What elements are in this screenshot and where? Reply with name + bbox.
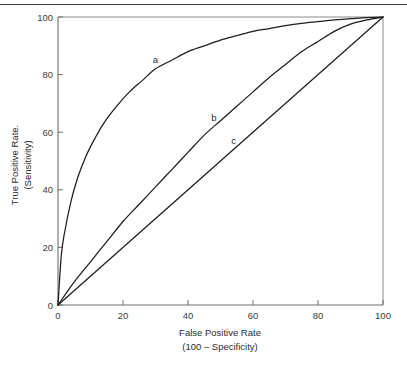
y-tick-label: 20 bbox=[42, 242, 53, 253]
y-tick-label: 60 bbox=[42, 127, 53, 138]
y-tick-label: 80 bbox=[42, 69, 53, 80]
y-axis-title: True Positive Rate. bbox=[9, 125, 20, 205]
x-axis-title: False Positive Rate bbox=[179, 327, 261, 338]
roc-figure: 0 20 40 60 80 100 0 20 40 60 80 100 a b … bbox=[0, 0, 407, 366]
x-axis-title-line2: (100 – Specificity) bbox=[182, 341, 258, 352]
curve-label-b: b bbox=[211, 112, 216, 123]
x-axis-ticks bbox=[58, 300, 383, 305]
y-tick-label: 100 bbox=[37, 12, 53, 23]
x-axis-tick-labels: 0 20 40 60 80 100 bbox=[55, 310, 391, 321]
y-axis-title-line2: (Sensitivity) bbox=[22, 140, 33, 189]
y-axis-tick-labels: 0 20 40 60 80 100 bbox=[37, 12, 53, 311]
y-tick-label: 0 bbox=[48, 300, 53, 311]
x-tick-label: 20 bbox=[118, 310, 129, 321]
roc-chart: 0 20 40 60 80 100 0 20 40 60 80 100 a b … bbox=[0, 0, 407, 366]
curve-label-c: c bbox=[231, 135, 236, 146]
y-tick-label: 40 bbox=[42, 184, 53, 195]
x-tick-label: 40 bbox=[183, 310, 194, 321]
x-tick-label: 80 bbox=[313, 310, 324, 321]
x-tick-label: 100 bbox=[375, 310, 391, 321]
roc-curve-c bbox=[58, 17, 383, 305]
curve-label-a: a bbox=[153, 54, 159, 65]
x-tick-label: 60 bbox=[248, 310, 259, 321]
x-tick-label: 0 bbox=[55, 310, 60, 321]
